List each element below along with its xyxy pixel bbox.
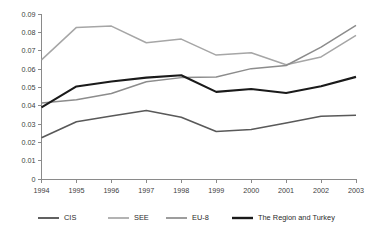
series-line: [42, 26, 357, 65]
x-tick-label: 2003: [348, 186, 364, 195]
y-tick-label: 0.02: [22, 138, 36, 147]
series-line: [42, 25, 357, 103]
chart-legend: CISSEEEU-8The Region and Turkey: [38, 213, 335, 222]
y-tick-label: 0.05: [22, 83, 36, 92]
legend-label: CIS: [64, 213, 76, 222]
x-tick-label: 1996: [103, 186, 119, 195]
y-tick-label: 0.06: [22, 65, 36, 74]
y-axis-ticks: [38, 14, 42, 179]
series-line: [42, 110, 357, 137]
y-axis-tick-labels: 00.010.020.030.040.050.060.070.080.09: [22, 10, 36, 184]
x-axis-group: 1994199519961997199819992000200120022003: [34, 179, 365, 195]
line-chart: 00.010.020.030.040.050.060.070.080.09 19…: [0, 0, 367, 237]
y-tick-label: 0.07: [22, 46, 36, 55]
y-tick-label: 0.04: [22, 101, 36, 110]
chart-canvas: 00.010.020.030.040.050.060.070.080.09 19…: [0, 0, 367, 237]
x-tick-label: 1999: [208, 186, 224, 195]
x-tick-label: 1997: [138, 186, 154, 195]
y-tick-label: 0.08: [22, 28, 36, 37]
legend-label: The Region and Turkey: [258, 213, 335, 222]
x-tick-label: 2001: [278, 186, 294, 195]
legend-label: SEE: [134, 213, 149, 222]
legend-label: EU-8: [192, 213, 209, 222]
series-lines: [42, 25, 357, 137]
x-tick-label: 1994: [34, 186, 50, 195]
series-line: [42, 75, 357, 107]
x-tick-label: 1998: [173, 186, 189, 195]
x-tick-label: 2000: [243, 186, 259, 195]
x-tick-label: 2002: [313, 186, 329, 195]
y-axis-group: 00.010.020.030.040.050.060.070.080.09: [22, 10, 42, 184]
y-tick-label: 0.01: [22, 156, 36, 165]
y-tick-label: 0: [32, 175, 36, 184]
x-axis-ticks: [42, 179, 357, 183]
x-axis-tick-labels: 1994199519961997199819992000200120022003: [34, 186, 365, 195]
y-tick-label: 0.09: [22, 10, 36, 19]
y-tick-label: 0.03: [22, 120, 36, 129]
x-tick-label: 1995: [68, 186, 84, 195]
